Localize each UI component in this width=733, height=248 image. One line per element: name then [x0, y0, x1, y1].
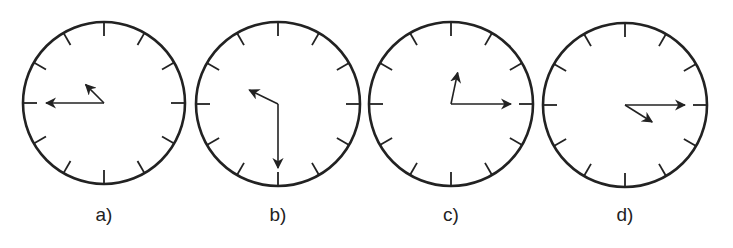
clock-label-a: a): [84, 204, 124, 226]
hour-tick: [380, 63, 392, 70]
hour-tick: [659, 164, 666, 176]
hour-tick: [554, 64, 566, 71]
hour-tick: [684, 64, 696, 71]
hour-hand: [249, 90, 278, 104]
hour-tick: [380, 138, 392, 145]
hour-tick: [337, 63, 349, 70]
hour-tick: [312, 33, 319, 45]
hour-tick: [584, 164, 591, 176]
clock-label-d: d): [605, 204, 645, 226]
hour-tick: [237, 33, 244, 45]
hour-hand: [451, 73, 458, 104]
hour-tick: [659, 34, 666, 46]
hour-tick: [554, 139, 566, 146]
hour-tick: [237, 163, 244, 175]
hour-tick: [64, 33, 71, 45]
hour-tick: [34, 137, 46, 144]
hour-tick: [485, 163, 492, 175]
hour-tick: [485, 33, 492, 45]
hour-tick: [410, 163, 417, 175]
clock-a: [23, 22, 185, 184]
clock-c: [369, 22, 533, 186]
hour-tick: [138, 161, 145, 173]
hour-tick: [684, 139, 696, 146]
clock-b: [196, 22, 360, 186]
hour-hand: [86, 85, 104, 103]
hour-tick: [207, 63, 219, 70]
hour-tick: [337, 138, 349, 145]
hour-tick: [162, 137, 174, 144]
hour-tick: [312, 163, 319, 175]
clock-d: [543, 23, 707, 187]
hour-tick: [510, 63, 522, 70]
hour-tick: [138, 33, 145, 45]
hour-tick: [207, 138, 219, 145]
hour-tick: [510, 138, 522, 145]
hour-tick: [34, 63, 46, 70]
clock-label-c: c): [431, 204, 471, 226]
hour-tick: [64, 161, 71, 173]
clock-label-b: b): [258, 204, 298, 226]
hour-tick: [162, 63, 174, 70]
hour-tick: [410, 33, 417, 45]
hour-tick: [584, 34, 591, 46]
hour-hand: [625, 105, 652, 122]
